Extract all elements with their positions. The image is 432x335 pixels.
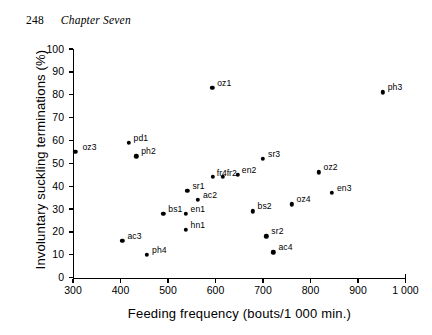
data-point-label: pd1 bbox=[134, 134, 149, 143]
data-point-label: oz4 bbox=[297, 195, 311, 204]
data-point bbox=[183, 211, 187, 215]
y-tick-mark bbox=[69, 254, 73, 255]
data-point bbox=[271, 250, 275, 254]
data-point-label: en1 bbox=[191, 205, 206, 214]
data-point bbox=[161, 211, 165, 215]
data-point bbox=[316, 170, 320, 174]
y-tick-mark bbox=[69, 48, 73, 49]
x-tick-label: 800 bbox=[289, 285, 333, 295]
data-point bbox=[210, 86, 214, 90]
data-point bbox=[236, 173, 240, 177]
data-point-label: sr3 bbox=[268, 150, 280, 159]
y-tick-mark bbox=[69, 71, 73, 72]
y-tick-mark bbox=[69, 186, 73, 187]
data-point-label: ph2 bbox=[141, 147, 156, 156]
data-point-label: ac2 bbox=[203, 191, 217, 200]
x-tick-mark bbox=[357, 279, 358, 283]
data-point bbox=[261, 157, 265, 161]
y-tick-mark bbox=[69, 117, 73, 118]
x-tick-mark bbox=[405, 279, 406, 283]
data-point-label: oz1 bbox=[217, 79, 231, 88]
data-point-label: sr2 bbox=[271, 227, 283, 236]
x-tick-mark bbox=[262, 279, 263, 283]
data-point-label: ph4 bbox=[152, 246, 167, 255]
x-tick-label: 500 bbox=[146, 285, 190, 295]
data-point bbox=[289, 202, 293, 206]
data-point-label: bs1 bbox=[168, 205, 182, 214]
data-point-label: en3 bbox=[337, 184, 352, 193]
data-point bbox=[264, 234, 268, 238]
data-point-label: en2 bbox=[242, 166, 257, 175]
data-point bbox=[183, 227, 187, 231]
data-point bbox=[210, 175, 214, 179]
y-tick-mark bbox=[69, 208, 73, 209]
data-point-label: ac4 bbox=[278, 243, 292, 252]
y-tick-mark bbox=[69, 94, 73, 95]
x-tick-label: 300 bbox=[51, 285, 95, 295]
data-point bbox=[134, 154, 138, 158]
data-point bbox=[145, 253, 149, 257]
y-axis-line bbox=[73, 49, 74, 279]
x-tick-label: 600 bbox=[194, 285, 238, 295]
x-tick-label: 900 bbox=[336, 285, 380, 295]
data-point bbox=[330, 191, 334, 195]
x-tick-mark bbox=[167, 279, 168, 283]
page-canvas: 248Chapter Seven 0102030405060708090100 … bbox=[0, 0, 432, 335]
x-tick-label: 400 bbox=[99, 285, 143, 295]
data-point-label: oz3 bbox=[82, 143, 96, 152]
scatter-plot-figure: 0102030405060708090100 30040050060070080… bbox=[0, 0, 432, 335]
data-point bbox=[73, 150, 77, 154]
data-point-label: hn1 bbox=[191, 221, 206, 230]
data-point bbox=[126, 141, 130, 145]
data-point-label: ph3 bbox=[388, 83, 403, 92]
data-point bbox=[120, 239, 124, 243]
data-point-label: ac3 bbox=[127, 232, 141, 241]
x-tick-mark bbox=[72, 279, 73, 283]
data-point-label: bs2 bbox=[258, 202, 272, 211]
y-tick-mark bbox=[69, 140, 73, 141]
x-tick-mark bbox=[120, 279, 121, 283]
data-point bbox=[196, 198, 200, 202]
x-axis-line bbox=[73, 278, 406, 279]
data-point-label: oz2 bbox=[324, 163, 338, 172]
y-tick-mark bbox=[69, 231, 73, 232]
y-axis-title: Involuntary suckling terminations (%) bbox=[33, 35, 48, 285]
x-tick-label: 700 bbox=[241, 285, 285, 295]
x-tick-mark bbox=[310, 279, 311, 283]
data-point bbox=[250, 209, 254, 213]
x-tick-label: 1 000 bbox=[384, 285, 428, 295]
data-point bbox=[220, 175, 224, 179]
y-tick-mark bbox=[69, 163, 73, 164]
data-point bbox=[185, 189, 189, 193]
x-tick-mark bbox=[215, 279, 216, 283]
x-axis-title: Feeding frequency (bouts/1 000 min.) bbox=[73, 306, 406, 321]
data-point bbox=[380, 90, 384, 94]
